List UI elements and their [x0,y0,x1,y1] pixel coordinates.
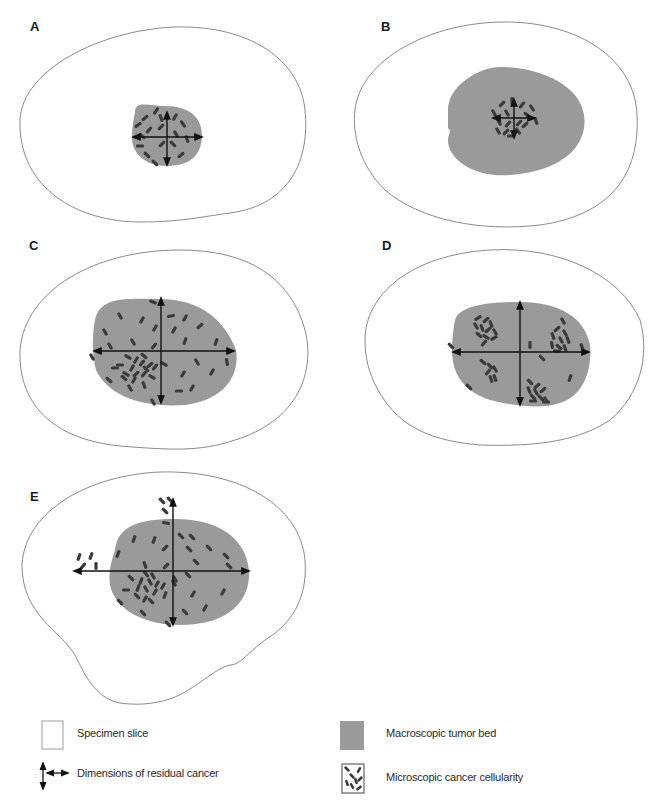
panel-label-e: E [30,489,39,504]
figure-canvas [0,0,664,809]
cellularity-swatch [342,764,364,793]
legend-tumor-bed-label: Macroscopic tumor bed [386,727,496,739]
dimension-arrows-swatch [43,763,68,789]
tumor-bed-d [452,302,590,406]
panel-label-b: B [381,19,390,34]
panel-label-a: A [30,19,39,34]
tumor-bed-swatch [340,721,364,750]
panel-a [20,27,306,222]
legend-cellularity-label: Microscopic cancer cellularity [386,771,523,783]
panel-e [22,472,305,704]
panel-label-d: D [382,238,391,253]
panel-b [354,22,637,227]
legend-specimen-slice-label: Specimen slice [77,727,148,739]
panel-label-c: C [29,238,38,253]
panel-d [365,250,644,446]
panel-c [20,250,308,449]
specimen-slice-swatch [42,721,63,749]
legend-dimensions-label: Dimensions of residual cancer [77,767,219,779]
